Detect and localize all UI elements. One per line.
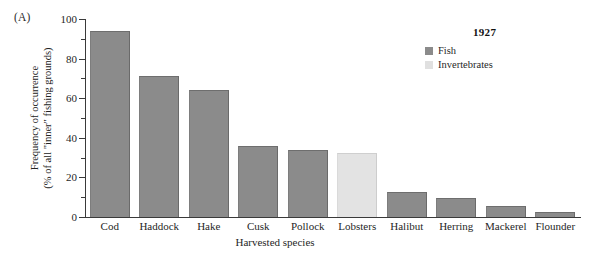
x-tick-label-halibut: Halibut bbox=[382, 220, 432, 233]
invertebrates-swatch bbox=[425, 61, 433, 69]
legend-items: FishInvertebrates bbox=[425, 44, 580, 71]
y-tick-label: 80 bbox=[66, 54, 77, 65]
fish-swatch bbox=[425, 47, 433, 55]
y-axis-title-line-1: Frequency of occurrence bbox=[28, 47, 41, 188]
bar-lobsters bbox=[337, 153, 377, 217]
bar-halibut bbox=[387, 192, 427, 217]
bar-mackerel bbox=[486, 206, 526, 217]
x-tick-label-pollock: Pollock bbox=[283, 220, 333, 233]
x-tick-label-flounder: Flounder bbox=[531, 220, 581, 233]
y-tick-label: 40 bbox=[66, 133, 77, 144]
legend: 1927 FishInvertebrates bbox=[425, 26, 580, 72]
y-axis-tick-labels: 020406080100 bbox=[47, 19, 77, 218]
y-tick-label: 60 bbox=[66, 93, 77, 104]
x-axis-tick-labels: CodHaddockHakeCuskPollockLobstersHalibut… bbox=[85, 220, 583, 236]
y-tick-label: 0 bbox=[72, 212, 78, 223]
x-tick-label-cod: Cod bbox=[85, 220, 135, 233]
x-tick-label-hake: Hake bbox=[184, 220, 234, 233]
bar-herring bbox=[436, 198, 476, 217]
legend-title: 1927 bbox=[473, 26, 580, 38]
bar-haddock bbox=[139, 76, 179, 217]
y-tick-label: 20 bbox=[66, 172, 77, 183]
x-axis-line bbox=[85, 217, 581, 218]
figure-panel-a: (A) Frequency of occurrence (% of all "i… bbox=[0, 0, 590, 260]
x-tick-label-lobsters: Lobsters bbox=[333, 220, 383, 233]
y-tick-major bbox=[79, 217, 85, 218]
x-axis-title: Harvested species bbox=[0, 236, 590, 248]
legend-item-fish: Fish bbox=[425, 44, 580, 57]
bar-pollock bbox=[288, 150, 328, 217]
x-tick-label-herring: Herring bbox=[432, 220, 482, 233]
legend-label-invertebrates: Invertebrates bbox=[438, 59, 493, 70]
bar-hake bbox=[189, 90, 229, 217]
legend-label-fish: Fish bbox=[438, 45, 456, 56]
bar-flounder bbox=[535, 212, 575, 217]
x-tick-label-cusk: Cusk bbox=[234, 220, 284, 233]
bar-cusk bbox=[238, 146, 278, 217]
x-tick-label-mackerel: Mackerel bbox=[481, 220, 531, 233]
bar-cod bbox=[90, 31, 130, 217]
x-axis-title-text: Harvested species bbox=[235, 236, 314, 248]
x-tick-label-haddock: Haddock bbox=[135, 220, 185, 233]
legend-item-invertebrates: Invertebrates bbox=[425, 58, 580, 71]
y-tick-label: 100 bbox=[61, 14, 78, 25]
